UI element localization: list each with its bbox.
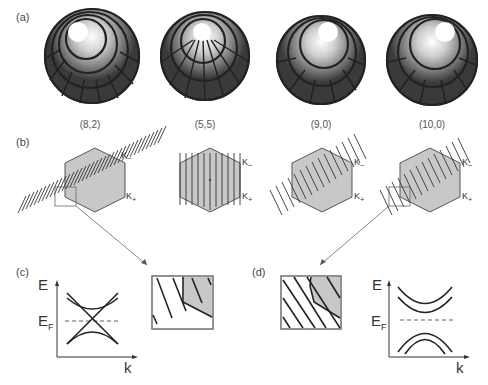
nanotube-5-5 [160, 11, 250, 101]
fermi-level-label: EF [38, 312, 54, 332]
nanotube-8-2 [44, 8, 140, 104]
energy-axis-label: E [372, 276, 382, 293]
k-plus-label: K+ [242, 191, 252, 204]
energy-axis-label: E [38, 276, 48, 293]
k-plus-label: K+ [354, 191, 364, 204]
momentum-axis-label: k [124, 359, 132, 376]
zoom-box-semiconducting [281, 276, 341, 329]
k-plus-label: K+ [126, 191, 136, 204]
nanotube-10-0 [386, 14, 478, 106]
brillouin-zone-8-2 [18, 126, 166, 265]
panel-label-d: (d) [252, 266, 265, 278]
k-plus-label: K+ [462, 191, 472, 204]
nanotube-9-0 [276, 15, 366, 105]
panel-label-b: (b) [16, 136, 29, 148]
chirality-label-8-2: (8,2) [60, 119, 120, 130]
chirality-label-10-0: (10,0) [402, 119, 462, 130]
panel-label-c: (c) [16, 266, 29, 278]
chirality-label-5-5: (5,5) [175, 119, 235, 130]
k-minus-label: K− [242, 157, 252, 170]
fermi-level-label: EF [371, 312, 387, 332]
brillouin-zone-9-0 [270, 134, 366, 215]
panel-label-a: (a) [16, 11, 29, 23]
brillouin-zone-5-5 [180, 148, 240, 212]
k-minus-label: K− [462, 157, 472, 170]
band-diagram-semiconducting [387, 280, 470, 359]
k-minus-label: K− [354, 157, 364, 170]
zoom-box-metallic [152, 276, 213, 329]
momentum-axis-label: k [456, 359, 464, 376]
band-diagram-metallic [55, 280, 138, 359]
chirality-label-9-0: (9,0) [291, 119, 351, 130]
k-minus-label: K− [121, 150, 131, 163]
